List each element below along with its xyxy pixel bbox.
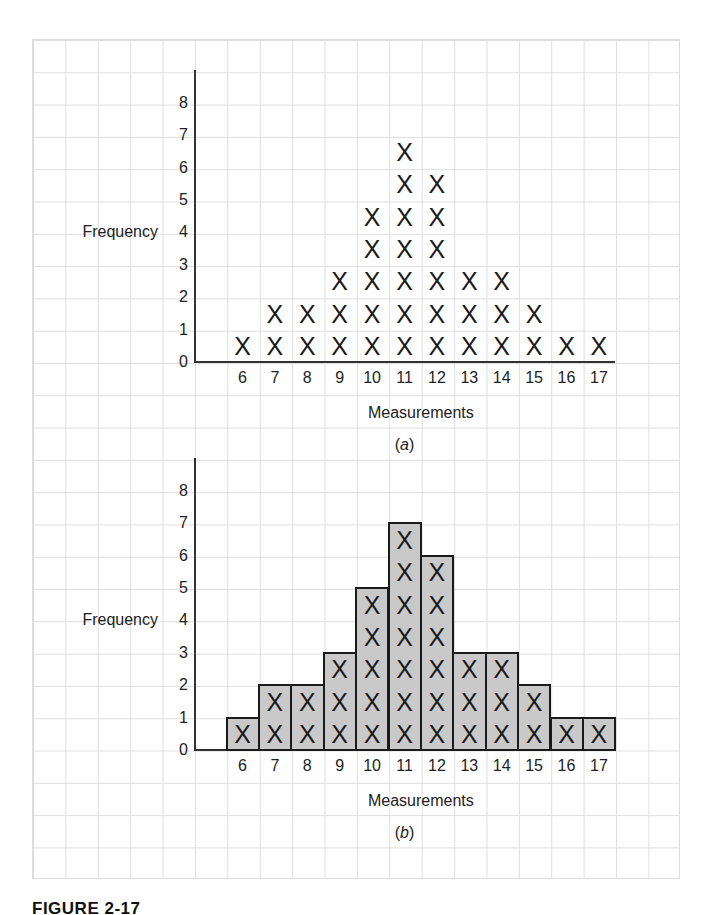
y-tick-label: 1 — [168, 322, 188, 338]
x-mark-icon: X — [356, 298, 388, 330]
x-mark-icon: X — [421, 653, 453, 685]
x-mark-icon: X — [356, 718, 388, 750]
x-mark-icon: X — [486, 686, 518, 718]
x-tick-label: 8 — [291, 758, 323, 774]
x-mark-icon: X — [453, 686, 485, 718]
x-mark-icon: X — [486, 265, 518, 297]
x-tick-label: 9 — [324, 758, 356, 774]
x-mark-icon: X — [453, 653, 485, 685]
x-axis-title: Measurements — [321, 405, 521, 421]
x-mark-icon: X — [324, 265, 356, 297]
x-mark-icon: X — [389, 621, 421, 653]
x-mark-icon: X — [324, 298, 356, 330]
x-mark-icon: X — [389, 556, 421, 588]
x-tick-label: 17 — [583, 370, 615, 386]
graph-paper-grid — [32, 39, 680, 879]
x-mark-icon: X — [389, 298, 421, 330]
x-tick-label: 12 — [421, 370, 453, 386]
x-tick-label: 16 — [551, 758, 583, 774]
x-mark-icon: X — [486, 653, 518, 685]
x-tick-label: 13 — [453, 370, 485, 386]
x-mark-icon: X — [356, 686, 388, 718]
y-tick-label: 7 — [168, 127, 188, 143]
x-tick-label: 14 — [486, 370, 518, 386]
y-tick-label: 3 — [168, 645, 188, 661]
x-tick-label: 16 — [551, 370, 583, 386]
x-mark-icon: X — [421, 589, 453, 621]
x-mark-icon: X — [421, 330, 453, 362]
x-tick-label: 10 — [356, 370, 388, 386]
panel-letter: b — [400, 824, 409, 841]
x-tick-label: 6 — [227, 370, 259, 386]
x-tick-label: 6 — [227, 758, 259, 774]
x-mark-icon: X — [518, 686, 550, 718]
x-mark-icon: X — [421, 298, 453, 330]
x-mark-icon: X — [421, 168, 453, 200]
x-mark-icon: X — [356, 265, 388, 297]
x-mark-icon: X — [259, 298, 291, 330]
x-mark-icon: X — [389, 686, 421, 718]
x-mark-icon: X — [259, 330, 291, 362]
x-tick-label: 15 — [518, 370, 550, 386]
x-tick-label: 7 — [259, 758, 291, 774]
panel-label: (a) — [375, 437, 435, 453]
x-mark-icon: X — [356, 589, 388, 621]
x-mark-icon: X — [291, 686, 323, 718]
x-mark-icon: X — [421, 265, 453, 297]
x-mark-icon: X — [453, 330, 485, 362]
x-axis-title: Measurements — [321, 793, 521, 809]
x-mark-icon: X — [486, 718, 518, 750]
x-mark-icon: X — [421, 201, 453, 233]
x-mark-icon: X — [356, 621, 388, 653]
x-mark-icon: X — [583, 718, 615, 750]
x-tick-label: 11 — [389, 370, 421, 386]
x-mark-icon: X — [324, 330, 356, 362]
x-mark-icon: X — [324, 718, 356, 750]
x-tick-label: 12 — [421, 758, 453, 774]
x-mark-icon: X — [291, 718, 323, 750]
y-tick-label: 8 — [168, 483, 188, 499]
x-mark-icon: X — [259, 686, 291, 718]
x-mark-icon: X — [356, 201, 388, 233]
x-tick-label: 10 — [356, 758, 388, 774]
y-tick-label: 6 — [168, 160, 188, 176]
x-tick-label: 14 — [486, 758, 518, 774]
x-mark-icon: X — [389, 168, 421, 200]
y-tick-label: 4 — [168, 224, 188, 240]
x-mark-icon: X — [356, 233, 388, 265]
y-axis-title: Frequency — [38, 612, 158, 628]
x-mark-icon: X — [356, 653, 388, 685]
x-mark-icon: X — [421, 233, 453, 265]
x-mark-icon: X — [389, 233, 421, 265]
x-mark-icon: X — [518, 298, 550, 330]
x-mark-icon: X — [259, 718, 291, 750]
y-tick-label: 4 — [168, 612, 188, 628]
y-tick-label: 8 — [168, 95, 188, 111]
x-mark-icon: X — [518, 330, 550, 362]
y-tick-label: 0 — [168, 742, 188, 758]
panel-letter: a — [400, 436, 409, 453]
x-mark-icon: X — [389, 653, 421, 685]
x-mark-icon: X — [518, 718, 550, 750]
figure-caption: FIGURE 2-17 — [32, 899, 140, 915]
x-mark-icon: X — [551, 718, 583, 750]
x-mark-icon: X — [356, 330, 388, 362]
x-mark-icon: X — [583, 330, 615, 362]
x-mark-icon: X — [421, 556, 453, 588]
x-mark-icon: X — [389, 265, 421, 297]
x-tick-label: 11 — [389, 758, 421, 774]
x-tick-label: 9 — [324, 370, 356, 386]
x-mark-icon: X — [453, 265, 485, 297]
x-mark-icon: X — [421, 621, 453, 653]
x-mark-icon: X — [551, 330, 583, 362]
y-axis-title: Frequency — [38, 224, 158, 240]
y-tick-label: 5 — [168, 192, 188, 208]
y-tick-label: 7 — [168, 515, 188, 531]
y-axis-line — [194, 458, 196, 750]
x-mark-icon: X — [486, 298, 518, 330]
x-tick-label: 17 — [583, 758, 615, 774]
x-mark-icon: X — [389, 589, 421, 621]
x-mark-icon: X — [421, 686, 453, 718]
x-mark-icon: X — [389, 330, 421, 362]
panel-label: (b) — [375, 825, 435, 841]
